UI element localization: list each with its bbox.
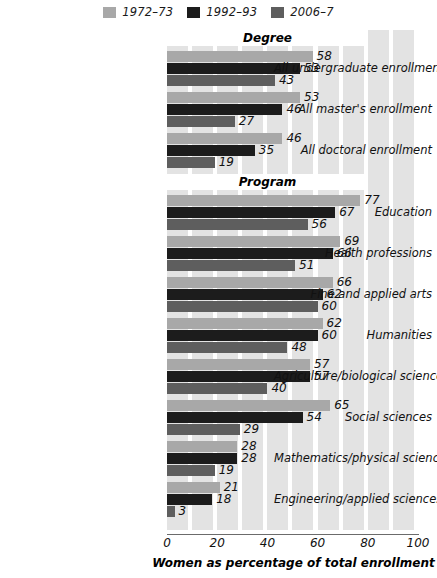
- bar-row: 29: [167, 424, 418, 435]
- bar-value-label: 40: [271, 381, 286, 395]
- bar-value-label: 56: [312, 217, 327, 231]
- legend-label-2: 2006–7: [290, 5, 334, 19]
- bar-value-label: 18: [216, 492, 231, 506]
- bar-row: 43: [167, 75, 418, 86]
- x-axis-line: [167, 534, 419, 535]
- category-label: Fine and applied arts: [274, 287, 437, 301]
- x-axis-tick-80: 80: [360, 536, 375, 550]
- bar-value-label: 29: [244, 422, 259, 436]
- category-label: Education: [274, 205, 437, 219]
- bar-value-label: 19: [219, 155, 234, 169]
- bar-value-label: 48: [291, 340, 306, 354]
- legend-swatch-icon-0: [103, 7, 116, 18]
- bar-2: [167, 75, 275, 86]
- bar-2: [167, 424, 240, 435]
- bar-2: [167, 260, 295, 271]
- bar-2: [167, 342, 287, 353]
- bar-2: [167, 301, 318, 312]
- category-label: Health professions: [274, 246, 437, 260]
- bar-row: 19: [167, 465, 418, 476]
- bar-row: 3: [167, 506, 418, 517]
- bar-2: [167, 157, 215, 168]
- legend-entry-0: 1972–73: [103, 5, 173, 19]
- bar-row: 40: [167, 383, 418, 394]
- section-banner-degree: Degree: [167, 30, 368, 46]
- legend-swatch-icon-2: [271, 7, 284, 18]
- bar-1: [167, 494, 212, 505]
- category-label: Engineering/applied sciences: [274, 492, 437, 506]
- bar-value-label: 51: [299, 258, 314, 272]
- legend-label-1: 1992–93: [206, 5, 257, 19]
- chart-legend: 1972–731992–932006–7: [0, 5, 437, 19]
- x-axis-title: Women as percentage of total enrollment: [150, 556, 437, 570]
- bar-row: 27: [167, 116, 418, 127]
- x-axis-tick-40: 40: [260, 536, 275, 550]
- bar-2: [167, 116, 235, 127]
- bar-2: [167, 383, 267, 394]
- bar-0: [167, 441, 237, 452]
- category-label: All undergraduate enrollment: [274, 61, 437, 75]
- bar-2: [167, 465, 215, 476]
- section-title: Program: [239, 175, 297, 189]
- bar-value-label: 27: [239, 114, 254, 128]
- category-label: Social sciences: [274, 410, 437, 424]
- bar-row: 60: [167, 301, 418, 312]
- bar-value-label: 60: [322, 299, 337, 313]
- bar-row: 19: [167, 157, 418, 168]
- x-axis-tick-20: 20: [210, 536, 225, 550]
- legend-entry-2: 2006–7: [271, 5, 334, 19]
- bar-2: [167, 219, 308, 230]
- chart-root: 1972–731992–932006–7 Degree5853435346274…: [0, 0, 437, 578]
- bar-value-label: 3: [179, 504, 187, 518]
- x-axis-tick-60: 60: [310, 536, 325, 550]
- category-label: All master's enrollment: [274, 102, 437, 116]
- bar-value-label: 28: [241, 451, 256, 465]
- section-banner-program: Program: [167, 174, 368, 190]
- category-label: Humanities: [274, 328, 437, 342]
- bar-row: 51: [167, 260, 418, 271]
- bar-value-label: 43: [279, 73, 294, 87]
- category-label: Mathematics/physical sciences: [274, 451, 437, 465]
- legend-entry-1: 1992–93: [187, 5, 257, 19]
- legend-label-0: 1972–73: [122, 5, 173, 19]
- x-axis-tick-100: 100: [407, 536, 430, 550]
- bar-0: [167, 482, 220, 493]
- category-label: Agriculture/biological sciences: [274, 369, 437, 383]
- category-label: All doctoral enrollment: [274, 143, 437, 157]
- bar-2: [167, 506, 175, 517]
- bar-row: 56: [167, 219, 418, 230]
- legend-swatch-icon-1: [187, 7, 200, 18]
- bar-1: [167, 145, 255, 156]
- x-axis-tick-0: 0: [163, 536, 171, 550]
- bar-value-label: 35: [259, 143, 274, 157]
- section-title: Degree: [243, 31, 292, 45]
- bar-value-label: 19: [219, 463, 234, 477]
- bar-1: [167, 104, 282, 115]
- bar-row: 48: [167, 342, 418, 353]
